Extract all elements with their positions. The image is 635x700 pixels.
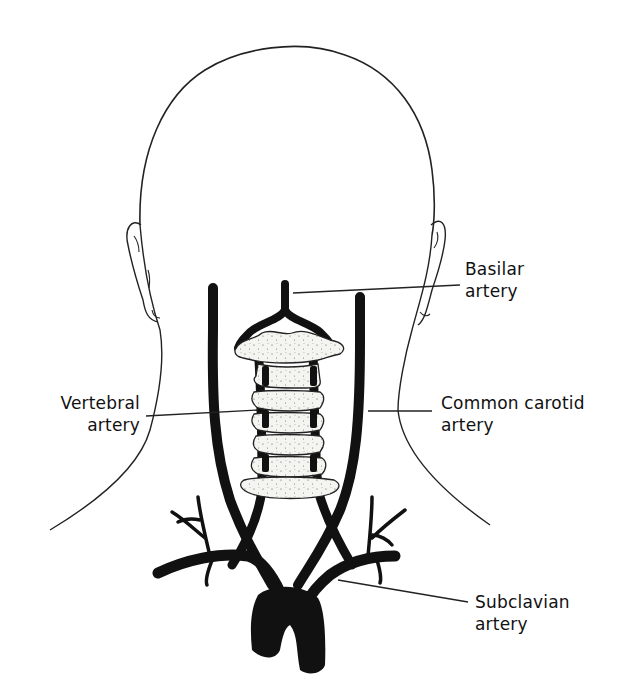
label-line: Vertebral [40,392,140,414]
vertebral-leader-line [146,410,258,416]
vertebra-c3 [252,391,324,412]
subclavian-artery-label: Subclavian artery [475,591,570,635]
label-line: Basilar [465,258,524,280]
left-neck-outline [50,225,162,530]
aortic-arch [251,587,325,674]
basilar-artery-label: Basilar artery [465,258,524,302]
vertebra-c7 [241,477,339,499]
basilar-leader-line [293,285,460,293]
subclavian-leader-line [338,580,468,602]
label-line: Common carotid [441,392,585,414]
label-line: artery [40,414,140,436]
left-ear [127,223,160,322]
label-line: Subclavian [475,591,570,613]
label-line: artery [465,280,524,302]
common-carotid-artery-label: Common carotid artery [441,392,585,436]
head-outline [140,46,434,235]
vertebra-c5 [253,435,323,456]
label-line: artery [475,613,570,635]
vertebral-artery-label: Vertebral artery [40,392,140,436]
label-line: artery [441,414,585,436]
left-subclavian-branches [172,497,213,585]
cervical-spine [235,331,344,498]
right-subclavian-branches [368,497,405,583]
